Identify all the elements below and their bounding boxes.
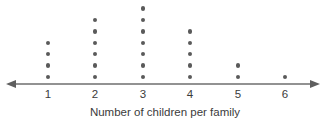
data-dot (188, 41, 193, 46)
tick-label: 2 (92, 88, 98, 101)
data-dot (283, 75, 288, 80)
tick-label: 1 (45, 88, 51, 101)
data-dot (188, 63, 193, 68)
data-dot (236, 75, 241, 80)
data-dot (141, 75, 146, 80)
data-dot (141, 29, 146, 34)
data-dot (46, 41, 51, 46)
tick-label: 4 (187, 88, 193, 101)
data-dot (188, 75, 193, 80)
data-dot (188, 52, 193, 57)
data-dot (93, 52, 98, 57)
data-dot (93, 41, 98, 46)
tick-label: 6 (282, 88, 288, 101)
data-dot (46, 63, 51, 68)
data-dot (93, 29, 98, 34)
data-dot (188, 29, 193, 34)
data-dot (93, 18, 98, 23)
data-dot (93, 75, 98, 80)
data-dot (46, 52, 51, 57)
data-dot (93, 63, 98, 68)
data-dot (141, 6, 146, 11)
tick-label: 5 (235, 88, 241, 101)
data-dot (141, 41, 146, 46)
data-dot (141, 52, 146, 57)
data-dot (141, 18, 146, 23)
data-dot (236, 63, 241, 68)
dot-plot-figure: 123456 Number of children per family (0, 0, 330, 126)
data-dot (141, 63, 146, 68)
x-axis-label: Number of children per family (90, 105, 240, 119)
data-dot (46, 75, 51, 80)
tick-label: 3 (140, 88, 146, 101)
